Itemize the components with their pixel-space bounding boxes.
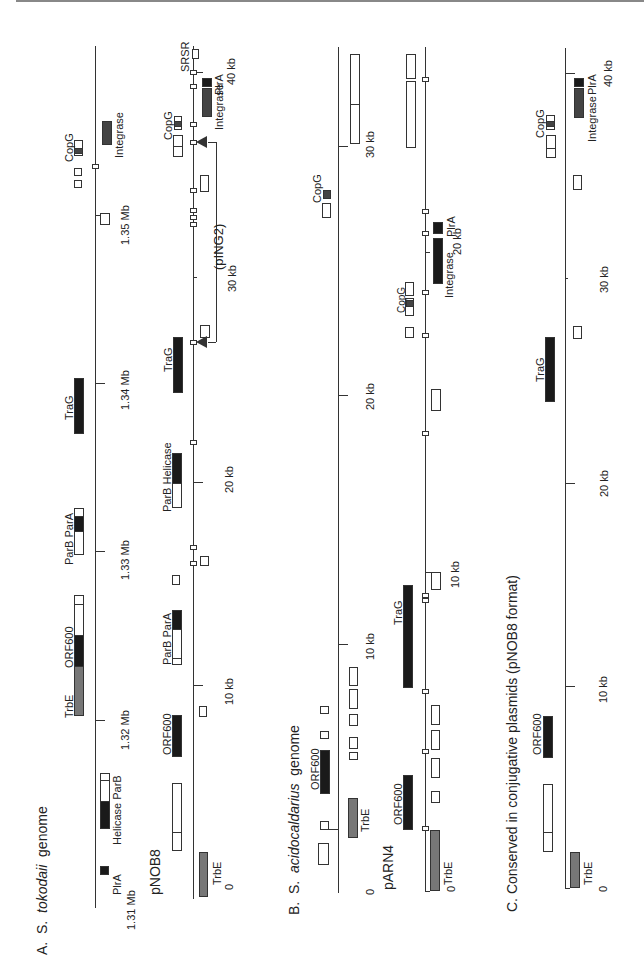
pnob8-axis xyxy=(193,46,194,899)
gene-copg xyxy=(323,190,331,199)
panel-a-title: A. S. tokodaii genome xyxy=(35,806,49,955)
gene-plra xyxy=(202,78,212,87)
gene-trag xyxy=(403,585,413,688)
acidocaldarius-genome-axis xyxy=(338,47,339,893)
gene-orf600 xyxy=(172,715,182,757)
gene-integrase xyxy=(202,88,212,117)
parn4-label: pARN4 xyxy=(383,845,394,890)
gene-trag xyxy=(545,337,555,402)
gene-integrase xyxy=(433,238,443,284)
gene-orf600 xyxy=(403,775,413,830)
tick-30kb xyxy=(338,146,348,147)
tick-1.32mb xyxy=(95,720,105,721)
tick-10kb xyxy=(565,686,575,687)
panel-b-title: B. S. acidocaldarius genome xyxy=(287,725,301,915)
gene-trbe xyxy=(348,798,358,838)
tick-20kb xyxy=(193,482,203,483)
conserved-axis xyxy=(565,48,566,888)
parn4-axis xyxy=(425,47,426,891)
gene-integrase xyxy=(102,121,112,145)
gene-plra xyxy=(574,78,584,87)
page-top-rule xyxy=(16,0,644,2)
tick-label: 1.35 Mb xyxy=(120,205,131,245)
gene-trag xyxy=(74,378,84,434)
gene-trag xyxy=(173,337,183,393)
tokodaii-genome-axis xyxy=(95,46,96,908)
tick-20kb xyxy=(425,252,430,253)
tick-label: 1.33 Mb xyxy=(120,540,131,580)
gene-trbe xyxy=(199,852,208,897)
tick-1.34mb xyxy=(95,383,105,384)
pnob8-label: pNOB8 xyxy=(149,849,162,895)
gene-trbe xyxy=(430,830,440,891)
label-parb-helicase: ParB Helicase xyxy=(162,442,173,512)
tick-label: 1.32 Mb xyxy=(120,710,131,750)
label-parb-para: ParB ParA xyxy=(162,613,173,665)
tick-10kb xyxy=(193,685,203,686)
tick-40kb xyxy=(565,73,575,74)
tick-label: 1.31 Mb xyxy=(126,890,137,930)
tick-10kb xyxy=(338,644,348,645)
gene-trbe xyxy=(570,852,580,888)
gene-integrase xyxy=(574,88,584,118)
tick-1.33mb xyxy=(95,551,105,552)
gene-orf600 xyxy=(543,716,553,758)
label-helicase-parb: Helicase ParB xyxy=(112,775,123,845)
tick-30kb xyxy=(565,278,568,279)
tick-label: 1.34 Mb xyxy=(120,370,131,410)
tick-20kb xyxy=(565,483,575,484)
panel-c-title: C. Conserved in conjugative plasmids (pN… xyxy=(505,575,519,912)
insertion-triangle xyxy=(196,336,207,348)
gene-plra xyxy=(100,866,109,875)
insertion-label: (pING2) xyxy=(213,224,224,270)
tick-30kb xyxy=(193,277,197,278)
gene-orf600 xyxy=(320,750,330,794)
label-parb-para: ParB ParA xyxy=(64,513,75,565)
gene-plra xyxy=(433,222,443,234)
tick-20kb xyxy=(338,395,348,396)
